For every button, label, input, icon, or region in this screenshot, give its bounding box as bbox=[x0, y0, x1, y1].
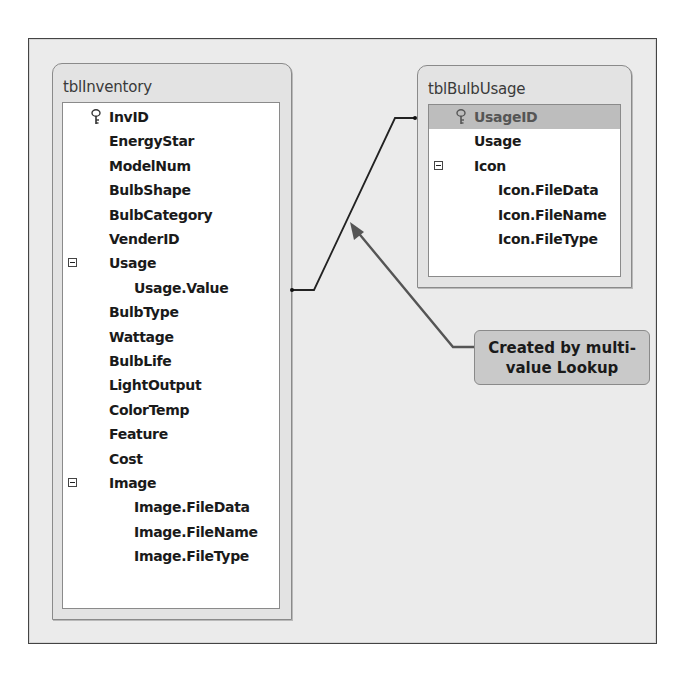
table-title: tblInventory bbox=[63, 78, 152, 96]
field-row[interactable]: Image.FileName bbox=[63, 520, 279, 544]
table-title: tblBulbUsage bbox=[428, 80, 525, 98]
field-row[interactable]: Usage bbox=[429, 129, 620, 153]
field-row[interactable]: BulbType bbox=[63, 300, 279, 324]
field-list[interactable]: InvID EnergyStar ModelNum BulbShape Bulb… bbox=[62, 102, 280, 609]
field-row[interactable]: BulbShape bbox=[63, 178, 279, 202]
field-row-usageid[interactable]: UsageID bbox=[429, 105, 620, 129]
field-row-usage-value[interactable]: Usage.Value bbox=[63, 276, 279, 300]
primary-key-icon bbox=[91, 109, 101, 125]
collapse-icon[interactable] bbox=[68, 478, 77, 487]
field-row[interactable]: BulbCategory bbox=[63, 203, 279, 227]
field-row-image[interactable]: Image bbox=[63, 471, 279, 495]
field-row-icon[interactable]: Icon bbox=[429, 154, 620, 178]
primary-key-icon bbox=[456, 109, 466, 125]
field-row[interactable]: Icon.FileName bbox=[429, 203, 620, 227]
collapse-icon[interactable] bbox=[434, 161, 443, 170]
field-row[interactable]: Image.FileData bbox=[63, 495, 279, 519]
field-row[interactable]: Icon.FileType bbox=[429, 227, 620, 251]
field-row[interactable]: BulbLife bbox=[63, 349, 279, 373]
callout-line-1: Created by multi- bbox=[475, 338, 649, 358]
field-row[interactable]: Wattage bbox=[63, 325, 279, 349]
field-row-invid[interactable]: InvID bbox=[63, 105, 279, 129]
field-row-usage[interactable]: Usage bbox=[63, 251, 279, 275]
field-row[interactable]: VenderID bbox=[63, 227, 279, 251]
field-list[interactable]: UsageID Usage Icon Icon.FileData Icon.Fi… bbox=[428, 104, 621, 277]
field-row[interactable]: Image.FileType bbox=[63, 544, 279, 568]
table-tblbulbusage[interactable]: tblBulbUsage UsageID Usage Icon Icon.Fil… bbox=[417, 65, 632, 288]
callout-line-2: value Lookup bbox=[475, 358, 649, 378]
table-tblinventory[interactable]: tblInventory InvID EnergyStar ModelNum B… bbox=[52, 63, 292, 620]
field-row[interactable]: EnergyStar bbox=[63, 129, 279, 153]
field-row[interactable]: ModelNum bbox=[63, 154, 279, 178]
field-row[interactable]: Feature bbox=[63, 422, 279, 446]
field-row[interactable]: Cost bbox=[63, 447, 279, 471]
collapse-icon[interactable] bbox=[68, 258, 77, 267]
annotation-callout: Created by multi- value Lookup bbox=[474, 330, 650, 385]
field-row[interactable]: ColorTemp bbox=[63, 398, 279, 422]
field-row[interactable]: LightOutput bbox=[63, 373, 279, 397]
field-row[interactable]: Icon.FileData bbox=[429, 178, 620, 202]
